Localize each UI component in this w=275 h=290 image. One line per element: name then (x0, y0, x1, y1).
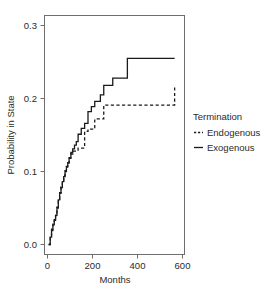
survival-step-chart: 0.3 0.2 0.1 0.0 0 200 400 600 Months Pro… (0, 0, 275, 290)
y-axis-title: Probability in State (5, 95, 16, 174)
x-tick-label-1: 200 (85, 260, 101, 271)
y-tick-label-1: 0.1 (24, 166, 37, 177)
x-tick-label-2: 400 (130, 260, 146, 271)
y-tick-label-3: 0.3 (24, 20, 37, 31)
x-tick-label-0: 0 (45, 260, 50, 271)
x-axis-title: Months (99, 274, 130, 285)
x-tick-label-3: 600 (175, 260, 191, 271)
y-tick-label-0: 0.0 (24, 239, 37, 250)
legend-label-endogenous: Endogenous (207, 127, 261, 138)
legend-title: Termination (193, 111, 242, 122)
y-tick-label-2: 0.2 (24, 93, 37, 104)
legend-label-exogenous: Exogenous (207, 142, 255, 153)
